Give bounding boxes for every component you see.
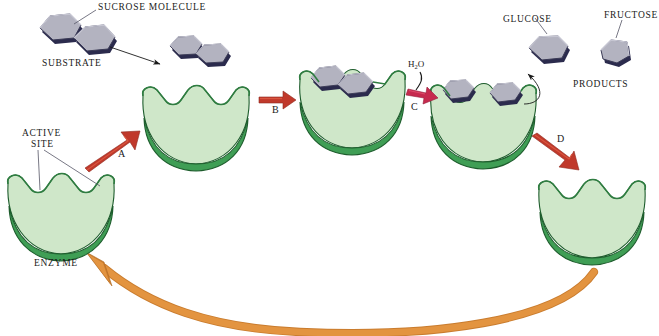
- active-site-label-line1: ACTIVE: [22, 128, 61, 139]
- enzyme-awaiting-substrate: [143, 86, 250, 172]
- sucrose-molecule-label: SUCROSE MOLECULE: [98, 2, 206, 13]
- recycle-arrow-orange: [86, 252, 594, 333]
- step-label-b: B: [272, 104, 279, 115]
- water-label: H2O: [408, 59, 424, 69]
- substrate-label: SUBSTRATE: [42, 58, 102, 69]
- fructose-label: FRUCTOSE: [604, 10, 658, 21]
- glucose-label: GLUCOSE: [503, 14, 552, 25]
- enzyme-substrate-complex: [300, 66, 406, 155]
- diagram-canvas: [0, 0, 659, 336]
- water-label-sub: 2: [415, 63, 418, 70]
- enzyme-product-complex: [431, 80, 537, 169]
- products-label: PRODUCTS: [573, 79, 628, 90]
- enzyme-label: ENZYME: [34, 258, 78, 269]
- active-site-label-line2: SITE: [31, 139, 54, 150]
- free-enzyme-start: [8, 150, 115, 261]
- step-arrow-d: [532, 133, 579, 170]
- free-enzyme-regenerated: [539, 180, 646, 266]
- sucrose-molecule-approaching: [170, 36, 231, 67]
- water-label-o: O: [418, 59, 425, 69]
- sucrose-molecule-free: [40, 10, 117, 55]
- step-label-d: D: [557, 133, 564, 144]
- substrate-entry-arrow: [110, 47, 160, 64]
- step-label-a: A: [118, 148, 125, 159]
- step-label-c: C: [411, 101, 418, 112]
- fructose-molecule: [601, 20, 631, 67]
- step-arrow-a: [85, 131, 140, 172]
- water-label-h: H: [408, 59, 415, 69]
- enzyme-cycle-diagram: SUCROSE MOLECULE SUBSTRATE ACTIVE SITE E…: [0, 0, 659, 336]
